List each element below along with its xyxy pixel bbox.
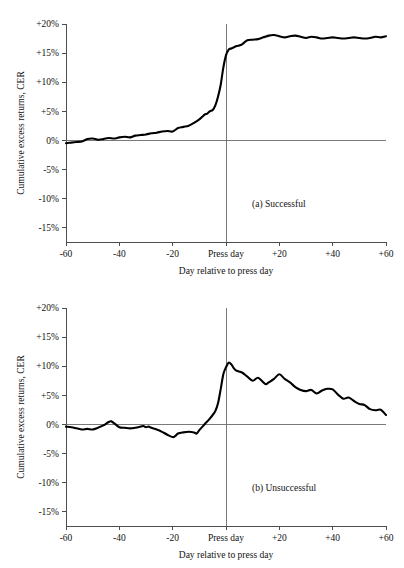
y-axis-title: Cumulative excess returns, CER [16,71,26,195]
plot-area-successful: +20%+15%+10%+5%0%-5%-10%-15%-60-40-20Pre… [16,19,394,276]
y-tick-label: 0% [46,420,59,430]
x-axis-title: Day relative to press day [179,550,274,560]
x-tick-label: -60 [60,249,73,259]
y-tick-label: +15% [36,332,59,342]
x-tick-label: -60 [60,533,73,543]
x-tick-label: -40 [113,533,126,543]
chart-svg-successful: +20%+15%+10%+5%0%-5%-10%-15%-60-40-20Pre… [0,0,404,284]
x-axis-title: Day relative to press day [179,266,274,276]
panel-label: (b) Unsuccessful [252,483,316,494]
y-tick-label: -5% [43,165,59,175]
figure-cumulative-excess-returns: +20%+15%+10%+5%0%-5%-10%-15%-60-40-20Pre… [0,0,404,568]
x-tick-label: +20 [272,533,287,543]
x-tick-label: +40 [325,249,340,259]
panel-label: (a) Successful [252,199,306,210]
chart-svg-unsuccessful: +20%+15%+10%+5%0%-5%-10%-15%-60-40-20Pre… [0,284,404,568]
x-tick-label: -40 [113,249,126,259]
x-tick-label: +60 [379,533,394,543]
chart-panel-unsuccessful: +20%+15%+10%+5%0%-5%-10%-15%-60-40-20Pre… [0,284,404,568]
y-tick-label: -5% [43,449,59,459]
x-tick-label: Press day [208,249,244,259]
y-tick-label: +5% [41,391,59,401]
y-tick-label: -10% [38,194,59,204]
y-tick-label: 0% [46,136,59,146]
y-axis-title: Cumulative excess returns, CER [16,355,26,479]
x-tick-label: +40 [325,533,340,543]
y-tick-label: -15% [38,507,59,517]
x-tick-label: +20 [272,249,287,259]
plot-area-unsuccessful: +20%+15%+10%+5%0%-5%-10%-15%-60-40-20Pre… [16,303,394,560]
x-tick-label: Press day [208,533,244,543]
x-tick-label: +60 [379,249,394,259]
y-tick-label: +5% [41,107,59,117]
y-tick-label: +20% [36,303,59,313]
y-tick-label: -10% [38,478,59,488]
chart-panel-successful: +20%+15%+10%+5%0%-5%-10%-15%-60-40-20Pre… [0,0,404,284]
x-tick-label: -20 [166,249,179,259]
y-tick-label: +10% [36,361,59,371]
y-tick-label: +15% [36,48,59,58]
y-tick-label: +20% [36,19,59,29]
y-tick-label: +10% [36,77,59,87]
x-tick-label: -20 [166,533,179,543]
y-tick-label: -15% [38,223,59,233]
